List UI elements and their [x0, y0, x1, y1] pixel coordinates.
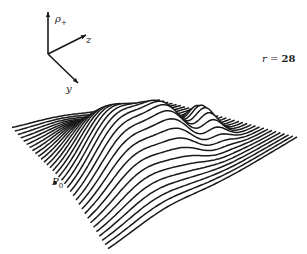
surface-plot: [0, 0, 307, 254]
axes-triad: [48, 12, 86, 83]
y-axis-label: y: [66, 84, 72, 94]
z-axis-label: z: [86, 35, 91, 45]
y-axis: [48, 54, 78, 83]
parameter-annotation: r = 28: [262, 54, 295, 64]
z-axis: [48, 35, 86, 54]
p0-marker-label: P0: [52, 177, 63, 190]
rho-axis-label: ρ+: [55, 14, 67, 27]
